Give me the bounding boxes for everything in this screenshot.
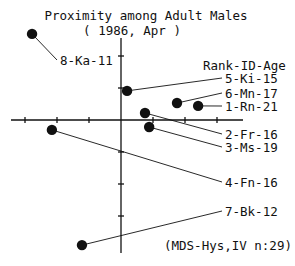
point-label: 5-Ki-15 xyxy=(225,71,278,86)
leader-line xyxy=(149,127,222,147)
data-point xyxy=(172,98,182,108)
point-label: 3-Ms-19 xyxy=(225,140,278,155)
point-labels: 8-Ka-115-Ki-156-Mn-171-Rn-212-Fr-163-Ms-… xyxy=(60,53,278,219)
chart-title: Proximity among Adult Males xyxy=(44,8,247,23)
point-label: 7-Bk-12 xyxy=(225,204,278,219)
data-point xyxy=(77,240,87,250)
point-label: 1-Rn-21 xyxy=(225,99,278,114)
footnote: (MDS-Hys,IV n:29) xyxy=(164,238,292,253)
leader-line xyxy=(32,34,57,60)
data-point xyxy=(140,108,150,118)
data-point xyxy=(27,29,37,39)
point-label: 8-Ka-11 xyxy=(60,53,113,68)
data-point xyxy=(47,125,57,135)
leader-line xyxy=(52,130,222,182)
data-point xyxy=(144,122,154,132)
data-point xyxy=(122,86,132,96)
data-point xyxy=(193,101,203,111)
leader-line xyxy=(145,113,222,134)
leader-line xyxy=(127,78,222,91)
point-label: 4-Fn-16 xyxy=(225,175,278,190)
mds-scatter-chart: Proximity among Adult Males ( 1986, Apr … xyxy=(0,0,295,266)
data-points xyxy=(27,29,203,251)
chart-subtitle: ( 1986, Apr ) xyxy=(83,23,181,38)
